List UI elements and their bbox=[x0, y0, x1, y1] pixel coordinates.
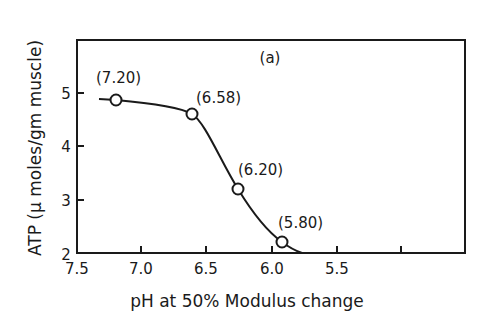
y-axis-title: ATP (μ moles/gm muscle) bbox=[25, 40, 45, 256]
x-axis-title: pH at 50% Modulus change bbox=[130, 291, 364, 311]
y-tick-label: 5 bbox=[61, 85, 71, 103]
x-axis: 7.5 7.0 6.5 6.0 5.5 bbox=[65, 246, 401, 278]
point-label: (6.58) bbox=[196, 89, 241, 107]
x-tick-label: 6.5 bbox=[194, 260, 218, 278]
data-point-marker bbox=[233, 184, 244, 195]
x-tick-label: 7.0 bbox=[129, 260, 153, 278]
data-point-marker bbox=[187, 109, 198, 120]
x-tick-label: 7.5 bbox=[65, 260, 89, 278]
chart-svg: 5 4 3 2 7.5 7.0 6.5 6.0 5.5 (7.20) (6.58… bbox=[0, 0, 486, 332]
y-axis: 5 4 3 2 bbox=[61, 85, 84, 264]
panel-label: (a) bbox=[260, 49, 281, 67]
x-tick-label: 6.0 bbox=[260, 260, 284, 278]
point-label: (7.20) bbox=[96, 69, 141, 87]
x-tick-label: 5.5 bbox=[325, 260, 349, 278]
y-tick-label: 4 bbox=[61, 138, 71, 156]
point-label: (5.80) bbox=[278, 214, 323, 232]
data-point-marker bbox=[111, 95, 122, 106]
point-label: (6.20) bbox=[238, 161, 283, 179]
data-point-marker bbox=[277, 237, 288, 248]
y-tick-label: 3 bbox=[61, 192, 71, 210]
